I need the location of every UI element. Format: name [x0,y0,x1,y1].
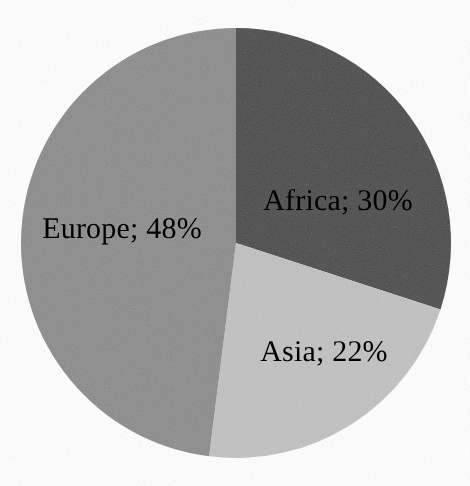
pie-chart-figure: Africa; 30% Asia; 22% Europe; 48% [0,0,470,486]
pie-slice-europe[interactable] [21,28,236,456]
pie-slices [21,28,451,458]
pie-chart-canvas [0,0,470,486]
